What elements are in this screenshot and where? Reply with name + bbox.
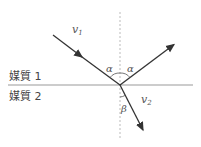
medium-2-label: 媒質 2 [9,89,42,103]
angle-arc-refraction [120,96,125,98]
incident-ray-a [53,35,82,57]
alpha-incidence-label: α [106,63,113,74]
v2-label: v2 [141,93,152,107]
medium-1-label: 媒質 1 [9,69,42,83]
beta-label: β [120,103,127,114]
alpha-reflection-label: α [127,63,134,74]
refraction-diagram: v1 v2 α α β 媒質 1 媒質 2 [0,0,201,147]
v1-label: v1 [72,23,83,37]
incident-ray-b [80,56,120,86]
